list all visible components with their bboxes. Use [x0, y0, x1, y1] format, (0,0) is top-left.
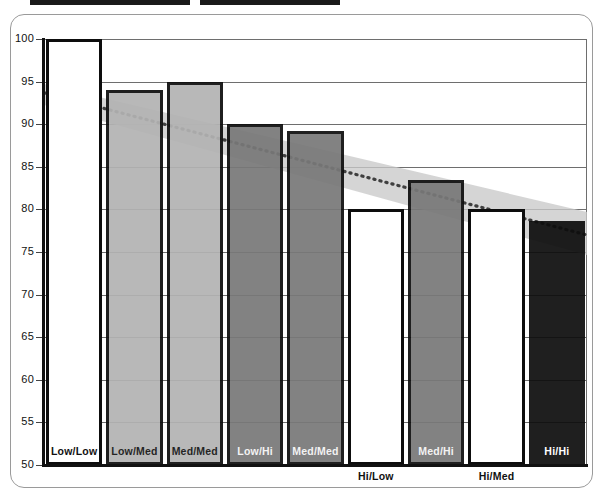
cropped-header-bar-left — [30, 0, 190, 5]
gridline-95 — [44, 82, 587, 83]
bar-hi-med[interactable] — [468, 209, 524, 465]
y-tick-90 — [36, 124, 42, 125]
bar-label: Med/Hi — [411, 445, 461, 457]
y-tick-85 — [36, 167, 42, 168]
y-tick-label-95: 95 — [6, 75, 34, 87]
y-axis-labels: 10095908580757065605550 — [2, 0, 34, 502]
y-tick-label-85: 85 — [6, 160, 34, 172]
y-axis-line — [42, 38, 45, 467]
y-tick-label-100: 100 — [6, 32, 34, 44]
bar-label: Low/Hi — [230, 445, 280, 457]
plot-frame-top — [44, 39, 587, 40]
chart-screenshot: Low/LowLow/MedMed/MedLow/HiMed/MedMed/Hi… — [0, 0, 607, 502]
bar-low-med[interactable]: Low/Med — [106, 90, 162, 465]
bar-hi-hi[interactable]: Hi/Hi — [529, 221, 585, 465]
y-tick-60 — [36, 380, 42, 381]
y-tick-75 — [36, 252, 42, 253]
bar-label: Low/Low — [49, 445, 99, 457]
y-tick-label-80: 80 — [6, 202, 34, 214]
x-category-label-hi-low: Hi/Low — [348, 470, 404, 482]
x-axis-line — [42, 464, 588, 467]
bar-med-med[interactable]: Med/Med — [167, 82, 223, 465]
y-tick-label-60: 60 — [6, 373, 34, 385]
y-tick-100 — [36, 39, 42, 40]
x-category-label-hi-med: Hi/Med — [468, 470, 524, 482]
bar-med-med[interactable]: Med/Med — [287, 131, 343, 465]
y-tick-label-75: 75 — [6, 245, 34, 257]
y-tick-label-50: 50 — [6, 458, 34, 470]
y-tick-label-90: 90 — [6, 117, 34, 129]
y-tick-50 — [36, 465, 42, 466]
cropped-header-bar-right — [200, 0, 340, 5]
y-tick-70 — [36, 295, 42, 296]
y-tick-55 — [36, 422, 42, 423]
y-tick-label-55: 55 — [6, 415, 34, 427]
bar-label: Low/Med — [109, 445, 159, 457]
bar-label: Med/Med — [170, 445, 220, 457]
bar-med-hi[interactable]: Med/Hi — [408, 180, 464, 465]
y-tick-label-70: 70 — [6, 288, 34, 300]
y-tick-95 — [36, 82, 42, 83]
bar-hi-low[interactable] — [348, 209, 404, 465]
bar-label: Med/Med — [290, 445, 340, 457]
bar-low-low[interactable]: Low/Low — [46, 39, 102, 465]
bar-label: Hi/Hi — [532, 445, 582, 457]
y-tick-label-65: 65 — [6, 330, 34, 342]
bar-low-hi[interactable]: Low/Hi — [227, 124, 283, 465]
y-tick-65 — [36, 337, 42, 338]
y-tick-80 — [36, 209, 42, 210]
